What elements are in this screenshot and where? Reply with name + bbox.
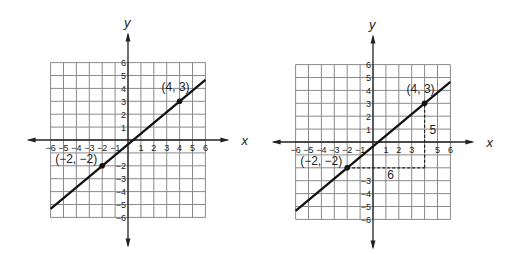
- y-axis-up-arrow-icon: [371, 35, 376, 44]
- y-tick-label: −6: [361, 215, 371, 225]
- x-tick-label: 3: [164, 143, 169, 153]
- point-label: (−2, −2): [300, 154, 342, 168]
- x-tick-label: 4: [177, 143, 182, 153]
- y-axis-label: y: [123, 15, 132, 30]
- data-point: [177, 99, 183, 105]
- y-tick-label: −4: [361, 189, 371, 199]
- x-axis-label: x: [240, 133, 248, 148]
- x-axis-right-arrow-icon: [220, 138, 229, 143]
- y-tick-label: 6: [366, 60, 371, 70]
- x-tick-label: 6: [448, 145, 453, 155]
- x-tick-label: 5: [435, 145, 440, 155]
- y-tick-label: 4: [366, 86, 371, 96]
- y-tick-label: 2: [366, 112, 371, 122]
- x-tick-label: 2: [396, 145, 401, 155]
- x-tick-label: 5: [190, 143, 195, 153]
- y-tick-label: 4: [121, 84, 126, 94]
- x-axis-label: x: [485, 135, 493, 150]
- y-tick-label: −5: [361, 202, 371, 212]
- graph-left: xy−6−5−4−3−2−1123456654321−2−3−4−5−6(4, …: [0, 0, 257, 255]
- y-axis-down-arrow-icon: [126, 238, 131, 247]
- x-tick-label: 1: [383, 145, 388, 155]
- y-tick-label: 5: [121, 71, 126, 81]
- y-tick-label: −4: [116, 187, 126, 197]
- x-tick-label: 2: [151, 143, 156, 153]
- coordinate-plane-right: xy−6−5−4−3−2−112356654321−3−4−5−656(4, 3…: [257, 0, 514, 255]
- point-label: (4, 3): [162, 80, 190, 94]
- data-point: [99, 163, 105, 169]
- data-point: [344, 165, 350, 171]
- data-point: [422, 101, 428, 107]
- y-tick-label: 3: [366, 99, 371, 109]
- y-tick-label: −5: [116, 200, 126, 210]
- graph-right: xy−6−5−4−3−2−112356654321−3−4−5−656(4, 3…: [257, 0, 514, 255]
- y-axis-label: y: [368, 17, 377, 32]
- y-tick-label: −2: [116, 161, 126, 171]
- x-tick-label: −2: [97, 143, 107, 153]
- y-axis-up-arrow-icon: [126, 33, 131, 42]
- y-tick-label: −3: [116, 174, 126, 184]
- coordinate-plane-left: xy−6−5−4−3−2−1123456654321−2−3−4−5−6(4, …: [0, 0, 257, 255]
- y-tick-label: −6: [116, 213, 126, 223]
- y-tick-label: 5: [366, 73, 371, 83]
- x-tick-label: −2: [342, 145, 352, 155]
- rise-label: 5: [430, 123, 437, 137]
- x-tick-label: 1: [138, 143, 143, 153]
- x-axis-left-arrow-icon: [272, 140, 281, 145]
- run-label: 6: [387, 168, 394, 182]
- y-tick-label: 6: [121, 58, 126, 68]
- x-axis-left-arrow-icon: [27, 138, 36, 143]
- point-label: (4, 3): [407, 82, 435, 96]
- y-tick-label: 2: [121, 110, 126, 120]
- x-tick-label: 6: [203, 143, 208, 153]
- y-tick-label: 3: [121, 97, 126, 107]
- y-axis-down-arrow-icon: [371, 240, 376, 249]
- y-tick-label: −3: [361, 176, 371, 186]
- y-tick-label: 1: [366, 125, 371, 135]
- point-label: (−2, −2): [55, 152, 97, 166]
- x-axis-right-arrow-icon: [465, 140, 474, 145]
- y-tick-label: 1: [121, 123, 126, 133]
- x-tick-label: 3: [409, 145, 414, 155]
